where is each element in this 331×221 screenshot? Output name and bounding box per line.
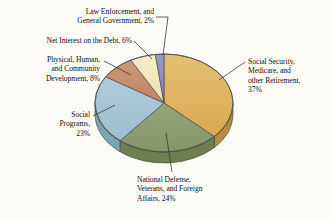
slice-label-physical-human: Physical, Human, and Community Developme… bbox=[4, 55, 100, 83]
slice-label-social-security: Social Security, Medicare, and other Ret… bbox=[248, 57, 328, 95]
slice-label-social-programs: Social Programs, 23% bbox=[14, 110, 90, 138]
pie-chart-figure: Law Enforcement, and General Government,… bbox=[0, 0, 331, 221]
leader-line-law-enforcement bbox=[156, 17, 168, 55]
pie-top-face bbox=[95, 54, 233, 152]
slice-label-national-defense: National Defense, Veterans, and Foreign … bbox=[137, 175, 257, 203]
slice-label-net-interest: Net Interest on the Debt, 6% bbox=[4, 36, 132, 45]
slice-label-law-enforcement: Law Enforcement, and General Government,… bbox=[26, 7, 154, 26]
leader-line-social-security bbox=[219, 62, 245, 80]
